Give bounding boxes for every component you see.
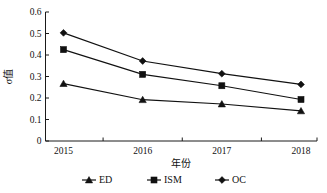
legend-marker-ism xyxy=(151,177,157,183)
data-point-ism-2018 xyxy=(298,97,304,103)
series-line-oc xyxy=(64,33,302,85)
y-axis-tick-label: 0.5 xyxy=(30,29,42,39)
x-axis: 2015201620172018 xyxy=(46,138,318,157)
series-container xyxy=(60,29,305,113)
sigma-value-line-chart: 00.10.20.30.40.50.6 2015201620172018 EDI… xyxy=(0,0,327,193)
y-axis-title: σ值 xyxy=(2,69,14,84)
y-axis: 00.10.20.30.40.50.6 xyxy=(30,7,49,146)
x-axis-tick-label: 2018 xyxy=(292,146,311,156)
x-axis-tick-label: 2016 xyxy=(133,146,152,156)
series-line-ism xyxy=(64,50,302,100)
legend-label-oc: OC xyxy=(232,174,246,185)
y-axis-tick-label: 0.2 xyxy=(30,93,42,103)
x-axis-tick-label: 2015 xyxy=(54,146,73,156)
x-axis-tick-label: 2017 xyxy=(212,146,231,156)
data-point-oc-2015 xyxy=(60,29,67,36)
data-point-ism-2016 xyxy=(140,71,146,77)
chart-legend: EDISMOC xyxy=(82,174,246,185)
data-point-ed-2015 xyxy=(60,80,67,86)
y-axis-tick-label: 0.1 xyxy=(30,115,42,125)
y-axis-tick-label: 0.6 xyxy=(30,7,42,17)
data-point-oc-2018 xyxy=(298,81,305,88)
data-point-oc-2017 xyxy=(218,70,225,77)
data-point-oc-2016 xyxy=(139,58,146,65)
y-axis-tick-label: 0.3 xyxy=(30,72,42,82)
y-axis-tick-label: 0 xyxy=(37,136,42,146)
data-point-ism-2017 xyxy=(219,83,225,89)
data-point-ism-2015 xyxy=(61,47,67,53)
chart-canvas: 00.10.20.30.40.50.6 2015201620172018 EDI… xyxy=(0,0,327,193)
legend-marker-oc xyxy=(219,177,226,184)
y-axis-tick-label: 0.4 xyxy=(30,50,42,60)
legend-label-ism: ISM xyxy=(164,174,182,185)
series-line-ed xyxy=(64,84,302,111)
x-axis-title: 年份 xyxy=(171,157,191,169)
legend-label-ed: ED xyxy=(99,174,112,185)
